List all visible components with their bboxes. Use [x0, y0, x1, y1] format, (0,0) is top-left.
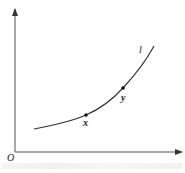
faint-caption-band [2, 163, 182, 169]
diagram-canvas: O l x y [0, 0, 185, 173]
origin-label: O [7, 152, 14, 163]
point-y-marker [121, 86, 125, 90]
curve-label: l [139, 44, 142, 55]
point-y-label: y [120, 92, 126, 103]
curve-l [34, 46, 154, 129]
point-x-label: x [82, 117, 88, 128]
diagram-svg: O l x y [0, 0, 185, 173]
